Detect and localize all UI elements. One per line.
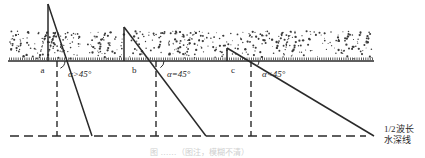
angle-label: α<45°	[262, 69, 286, 79]
wave-refraction-diagram: aα>45°bα=45°cα<45° 1/2波长 水深线 图 ……（图注，模糊不…	[0, 0, 425, 158]
angle-arc	[60, 61, 65, 68]
angle-arc	[160, 61, 164, 68]
wave-ray-line	[124, 27, 206, 136]
depth-line-label-2: 水深线	[384, 134, 411, 145]
case-b: bα=45°	[124, 27, 206, 136]
angle-label: α>45°	[68, 69, 92, 79]
case-a: aα>45°	[41, 4, 93, 136]
angle-label: α=45°	[167, 69, 191, 79]
wave-cases: aα>45°bα=45°cα<45°	[41, 4, 375, 136]
depth-line-label-1: 1/2波长	[384, 123, 414, 134]
case-label: a	[41, 65, 45, 75]
sediment-dots	[9, 30, 373, 60]
case-label: b	[132, 65, 137, 75]
figure-caption: 图 ……（图注，模糊不清）	[150, 147, 249, 157]
case-label: c	[231, 65, 235, 75]
